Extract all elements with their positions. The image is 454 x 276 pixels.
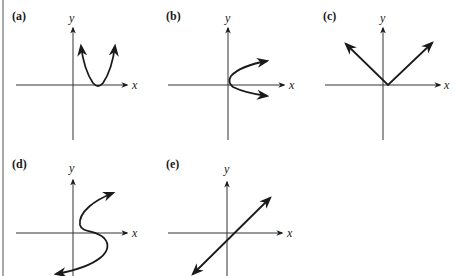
- panel-d: (d) x y: [12, 157, 138, 276]
- straight-line: [193, 198, 270, 274]
- y-axis-label: y: [68, 161, 75, 175]
- panel-label: (a): [12, 9, 26, 23]
- v-shape-curve: [346, 43, 432, 85]
- y-axis-label: y: [379, 11, 386, 25]
- x-axis-label: x: [288, 78, 295, 92]
- panel-label: (e): [166, 157, 179, 171]
- y-axis-label: y: [224, 11, 231, 25]
- panel-label: (d): [12, 157, 27, 171]
- y-axis-label: y: [68, 11, 75, 25]
- panel-b: (b) x y: [166, 9, 295, 140]
- sideways-parabola-curve: [229, 61, 267, 96]
- panel-c: (c) x y: [323, 9, 450, 140]
- panel-label: (c): [323, 9, 336, 23]
- y-axis-label: y: [223, 162, 230, 176]
- x-axis-label: x: [286, 226, 293, 240]
- panel-label: (b): [166, 9, 181, 23]
- panel-e: (e) x y: [166, 157, 293, 276]
- panel-a: (a) x y: [12, 9, 138, 140]
- parabola-curve: [81, 46, 115, 86]
- x-axis-label: x: [443, 78, 450, 92]
- x-axis-label: x: [131, 226, 138, 240]
- x-axis-label: x: [131, 78, 138, 92]
- graphs-figure: (a) x y (b) x y (c) x y (d) x y (e) x: [0, 0, 454, 276]
